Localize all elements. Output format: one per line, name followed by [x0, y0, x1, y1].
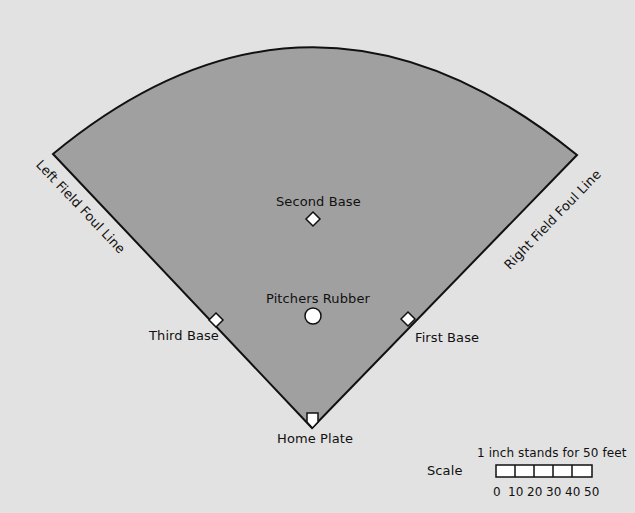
scale-tick: 20 — [527, 485, 542, 499]
second-base-label: Second Base — [276, 194, 361, 209]
scale-tick: 30 — [546, 485, 561, 499]
pitchers-rubber-label: Pitchers Rubber — [266, 291, 370, 306]
home-plate-label: Home Plate — [277, 431, 353, 446]
first-base-label: First Base — [415, 330, 479, 345]
scale-tick: 10 — [508, 485, 523, 499]
baseball-field-diagram: Left Field Foul Line Right Field Foul Li… — [0, 0, 635, 513]
field-area — [53, 47, 577, 428]
pitchers-rubber-icon — [305, 308, 321, 324]
scale-caption: 1 inch stands for 50 feet — [477, 446, 627, 460]
scale-tick: 50 — [584, 485, 599, 499]
scale-tick: 0 — [493, 485, 501, 499]
scale-bar — [496, 465, 592, 477]
third-base-label: Third Base — [149, 328, 219, 343]
scale-tick: 40 — [565, 485, 580, 499]
scale-label: Scale — [427, 463, 462, 478]
